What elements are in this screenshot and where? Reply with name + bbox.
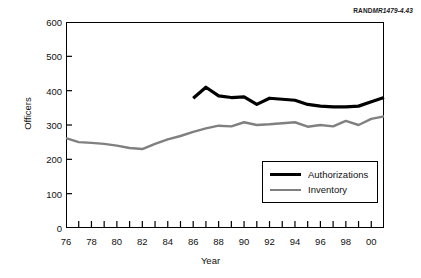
legend-swatch-inventory: [270, 189, 301, 191]
x-axis-tick-label: 92: [264, 236, 275, 247]
legend-item-inventory: Inventory: [270, 182, 368, 197]
legend-label-inventory: Inventory: [308, 184, 347, 195]
y-axis-tick-label: 300: [32, 120, 62, 131]
x-axis-tick-label: 76: [61, 236, 72, 247]
source-tag-id: MR1479-4.43: [373, 7, 413, 14]
series-line-authorizations: [193, 87, 384, 107]
source-tag: RANDMR1479-4.43: [353, 7, 413, 14]
y-axis-tick-label: 400: [32, 85, 62, 96]
y-axis-tick-label: 0: [32, 223, 62, 234]
x-axis-tick-label: 88: [213, 236, 224, 247]
x-axis-ticks: [79, 221, 372, 228]
x-axis-label: Year: [0, 255, 421, 266]
legend-label-authorizations: Authorizations: [308, 169, 368, 180]
y-axis-ticks: [66, 56, 72, 193]
x-axis-tick-label: 78: [86, 236, 97, 247]
x-axis-tick-label: 80: [112, 236, 123, 247]
chart-legend: Authorizations Inventory: [262, 161, 378, 203]
x-axis-tick-label: 86: [188, 236, 199, 247]
series-line-inventory: [66, 116, 384, 149]
y-axis-tick-label: 600: [32, 17, 62, 28]
x-axis-tick-label: 96: [315, 236, 326, 247]
x-axis-tick-label: 98: [341, 236, 352, 247]
x-axis-tick-label: 82: [137, 236, 148, 247]
y-axis-tick-label: 500: [32, 51, 62, 62]
source-tag-org: RAND: [353, 7, 372, 14]
x-axis-tick-label: 84: [162, 236, 173, 247]
legend-item-authorizations: Authorizations: [270, 167, 368, 182]
x-axis-tick-labels: 76788082848688909294969800: [0, 236, 421, 250]
x-axis-tick-label: 90: [239, 236, 250, 247]
chart-figure: RANDMR1479-4.43 Officers 010020030040050…: [0, 0, 421, 278]
series-lines: [66, 87, 384, 149]
x-axis-tick-label: 00: [366, 236, 377, 247]
y-axis-tick-label: 100: [32, 188, 62, 199]
x-axis-tick-label: 94: [290, 236, 301, 247]
legend-swatch-authorizations: [270, 173, 301, 176]
y-axis-tick-label: 200: [32, 154, 62, 165]
